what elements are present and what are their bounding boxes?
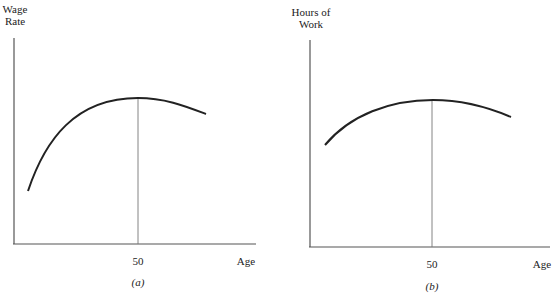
panel-a (13, 38, 256, 244)
wage-rate-curve (28, 98, 206, 191)
x-axis-label-a: Age (232, 255, 260, 267)
figure-canvas (0, 0, 560, 294)
x-tick-50-a: 50 (126, 255, 150, 267)
caption-b: (b) (420, 280, 444, 292)
y-axis-label-a-line1: Wage (1, 3, 29, 15)
x-tick-50-b: 50 (420, 258, 444, 270)
x-axis-label-b: Age (528, 258, 556, 270)
y-axis-label-b-line1: Hours of (288, 6, 334, 18)
caption-a: (a) (126, 276, 150, 288)
y-axis-label-b-line2: Work (288, 18, 334, 30)
y-axis-label-a-line2: Rate (1, 15, 29, 27)
hours-of-work-curve (325, 100, 511, 145)
panel-b (309, 40, 550, 247)
